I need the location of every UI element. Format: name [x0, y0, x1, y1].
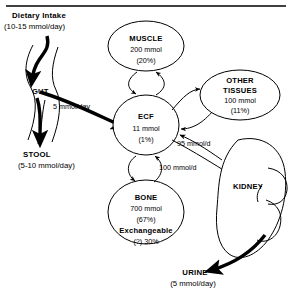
urine-label: URINE	[182, 268, 207, 277]
kidney-reabsorption-label: 95 mmol/d	[177, 139, 211, 148]
bone-amount: 700 mmol	[130, 204, 162, 213]
ecf-amount: 11 mmol	[132, 124, 159, 133]
kidney-label: KIDNEY	[233, 182, 263, 191]
other-tissues-label-line2: TISSUES	[223, 86, 257, 95]
kidney-outline	[216, 139, 287, 258]
muscle-label: MUSCLE	[129, 34, 162, 43]
gut-to-ecf-flow-label: 5 mmol/day	[53, 102, 91, 111]
urine-value: (5 mmol/day)	[170, 279, 216, 288]
other-tissues-label-line1: OTHER	[226, 76, 254, 85]
ecf-bone-exchange	[128, 156, 161, 182]
ecf-percent: (1%)	[138, 135, 153, 144]
bone-exchangeable-value: (?) 30%	[133, 237, 159, 246]
other-tissues-amount: 100 mmol	[224, 96, 256, 105]
diagram-canvas: Dietary Intake (10-15 mmol/day) GUT STOO…	[0, 0, 292, 294]
calcium-flux-diagram: Dietary Intake (10-15 mmol/day) GUT STOO…	[0, 0, 292, 294]
muscle-percent: (20%)	[136, 56, 155, 65]
muscle-ecf-exchange	[129, 72, 165, 95]
dietary-intake-label: Dietary Intake	[12, 11, 66, 20]
other-tissues-percent: (11%)	[231, 106, 250, 115]
dietary-intake-arrow	[32, 36, 48, 80]
bone-exchangeable-label: Exchangeable	[119, 226, 172, 235]
stool-arrow	[37, 98, 40, 140]
stool-value: (5-10 mmol/day)	[18, 161, 75, 170]
gut-label: GUT	[32, 87, 49, 96]
bone-label: BONE	[135, 193, 158, 202]
ecf-label: ECF	[138, 112, 154, 121]
dietary-intake-value: (10-15 mmol/day)	[4, 22, 65, 31]
stool-label: STOOL	[23, 150, 51, 159]
bone-percent: (67%)	[136, 215, 155, 224]
ecf-filtration-label: 100 mmol/d	[159, 163, 197, 172]
muscle-amount: 200 mmol	[130, 45, 162, 54]
